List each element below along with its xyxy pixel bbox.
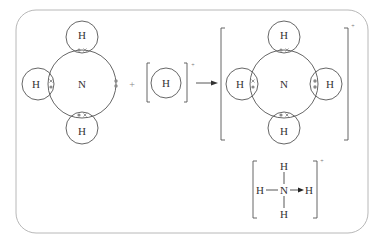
hydrogen-ion: H +: [147, 62, 195, 102]
charge-plus: +: [320, 158, 324, 164]
arrow-head-icon: [298, 188, 304, 193]
hydrogen-ion-label: H: [162, 77, 170, 89]
hydrogen-label-top: H: [280, 29, 288, 41]
structural-formula: + H N H H H: [253, 158, 324, 220]
electron-dot: [49, 85, 52, 88]
hydrogen-label-left: H: [236, 78, 244, 90]
reaction-arrow: [196, 81, 218, 86]
diagram-frame: [16, 10, 368, 233]
electron-cross: [252, 80, 255, 83]
ammonia-molecule: N H H H: [22, 21, 118, 144]
electron-dot: [279, 48, 282, 51]
electron-dot: [77, 113, 80, 116]
hydrogen-label-bottom: H: [280, 125, 288, 137]
right-bracket: [344, 28, 348, 140]
hydrogen-left: H: [256, 184, 264, 196]
electron-dot: [251, 85, 254, 88]
hydrogen-label-top: H: [78, 29, 86, 41]
lone-pair-dot: [114, 79, 117, 82]
coordinate-pair-dot: [313, 79, 316, 82]
electron-dot: [77, 48, 80, 51]
nitrogen-label: N: [78, 78, 86, 90]
nitrogen-center: N: [280, 184, 288, 196]
charge-plus: +: [351, 23, 355, 29]
ammonium-ion: + N H H H H: [221, 21, 355, 144]
right-bracket: [313, 161, 317, 218]
plus-sign: +: [129, 79, 135, 90]
hydrogen-label-left: H: [32, 78, 40, 90]
ammonium-formation-diagram: N H H H + H +: [0, 0, 386, 243]
coordinate-bond-arrow: [290, 188, 304, 193]
electron-cross: [50, 80, 53, 83]
left-bracket: [147, 63, 150, 102]
hydrogen-top: H: [280, 160, 288, 172]
coordinate-pair-dot: [313, 85, 316, 88]
charge-plus: +: [191, 62, 195, 68]
electron-cross: [84, 114, 87, 117]
right-bracket: [184, 63, 187, 102]
hydrogen-right: H: [305, 184, 313, 196]
lone-pair-dot: [114, 84, 117, 87]
electron-cross: [286, 114, 289, 117]
electron-dot: [279, 113, 282, 116]
left-bracket: [221, 28, 225, 140]
arrow-head-icon: [211, 81, 218, 86]
hydrogen-label-right: H: [326, 78, 334, 90]
hydrogen-bottom: H: [280, 208, 288, 220]
nitrogen-label: N: [280, 78, 288, 90]
hydrogen-label-bottom: H: [78, 125, 86, 137]
